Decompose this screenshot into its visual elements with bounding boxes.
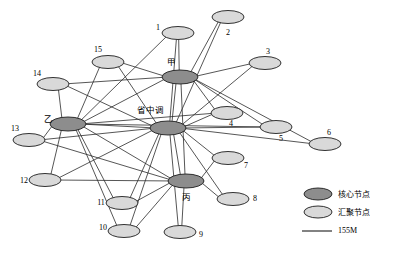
aggregation-node-shape-n13[interactable] [13,134,45,147]
node-label-n5: 5 [279,134,283,143]
edge-hub-n11 [130,134,159,198]
edge-hub-n4 [185,115,212,127]
node-jia[interactable]: 甲 [162,57,198,85]
edge-yi-n10 [76,130,117,225]
node-n14[interactable]: 14 [33,69,69,91]
figure-caption [0,249,398,258]
node-label-n2: 2 [226,28,230,37]
legend-panel: 核心节点汇聚节点155M [302,188,370,235]
edge-yi-n4 [86,113,212,123]
aggregation-node-shape-n8[interactable] [217,193,249,206]
edge-yi-n13 [44,127,52,138]
aggregation-node-shape-n5[interactable] [260,121,292,134]
legend-label-aggregation: 汇聚节点 [338,208,370,217]
node-label-n4: 4 [229,119,233,128]
node-n9[interactable]: 9 [164,226,203,239]
node-label-n12: 12 [20,176,28,185]
node-n3[interactable]: 3 [249,47,281,70]
edge-hub-n7 [184,131,214,155]
legend-label-bandwidth: 155M [338,226,357,235]
edge-bing-n7 [201,161,214,178]
edge-jia-n14 [69,77,163,83]
node-n6[interactable]: 6 [309,128,341,151]
legend-label-core: 核心节点 [338,189,370,199]
node-n8[interactable]: 8 [217,193,257,206]
node-n7[interactable]: 7 [212,152,248,170]
aggregation-node-shape-n3[interactable] [249,57,281,70]
legend-aggregation-node-swatch [304,206,332,218]
aggregation-node-shape-n9[interactable] [164,226,196,239]
aggregation-node-shape-n1[interactable] [162,27,194,40]
node-label-yi: 乙 [44,114,53,124]
edge-yi-bing [84,127,170,178]
aggregation-node-shape-n12[interactable] [29,174,61,187]
edge-yi-n11 [78,130,113,198]
edge-jia-n15 [123,63,162,75]
legend-core-node-swatch [304,188,332,200]
legend-item-2: 155M [302,226,357,235]
network-topology-figure: 省中调甲乙丙123456789101112131415 核心节点汇聚节点155M [0,0,398,258]
node-label-bing: 丙 [182,192,191,202]
core-node-shape-yi[interactable] [50,117,86,131]
aggregation-node-shape-n6[interactable] [309,138,341,151]
edge-hub-n12 [59,131,151,178]
node-hub[interactable]: 省中调 [137,105,187,136]
edge-jia-n2 [191,22,218,72]
node-n1[interactable]: 1 [156,23,194,40]
node-n15[interactable]: 15 [92,45,124,69]
edge-jia-n3 [197,64,249,76]
node-label-n13: 13 [11,124,19,133]
node-n12[interactable]: 12 [20,174,61,187]
edge-jia-n4 [194,81,215,109]
node-label-n11: 11 [97,198,105,207]
edge-bing-n13 [44,142,169,180]
aggregation-node-shape-n15[interactable] [92,56,124,69]
legend-item-0: 核心节点 [304,188,370,200]
node-label-n9: 9 [199,230,203,239]
core-node-shape-hub[interactable] [150,121,186,135]
topology-canvas: 省中调甲乙丙123456789101112131415 核心节点汇聚节点155M [0,0,398,258]
aggregation-node-shape-n14[interactable] [37,78,69,91]
node-bing[interactable]: 丙 [168,174,204,202]
aggregation-node-shape-n4[interactable] [211,107,243,120]
node-label-hub: 省中调 [137,105,164,115]
aggregation-node-shape-n10[interactable] [108,225,140,238]
edge-yi-n12 [51,130,61,174]
node-label-n7: 7 [244,161,248,170]
node-label-n10: 10 [99,223,107,232]
core-node-shape-bing[interactable] [168,174,204,188]
node-label-jia: 甲 [167,57,176,67]
edge-bing-n12 [61,180,169,181]
node-label-n14: 14 [33,69,41,78]
node-n2[interactable]: 2 [212,11,244,37]
edge-hub-bing [174,135,181,175]
edge-hub-n5 [186,127,261,128]
node-label-n6: 6 [327,128,331,137]
node-label-n3: 3 [266,47,270,56]
node-n11[interactable]: 11 [97,197,138,210]
node-n4[interactable]: 4 [211,107,243,128]
edge-jia-yi [84,80,163,122]
node-n10[interactable]: 10 [99,223,140,238]
node-label-n8: 8 [253,194,257,203]
edge-hub-n10 [130,134,161,225]
aggregation-node-shape-n2[interactable] [212,11,244,24]
node-label-n15: 15 [94,45,102,54]
edge-yi-n14 [59,90,62,118]
legend-item-1: 汇聚节点 [304,206,370,218]
core-node-shape-jia[interactable] [162,70,198,84]
node-n13[interactable]: 13 [11,124,45,147]
node-label-n1: 1 [156,23,160,32]
aggregation-node-shape-n11[interactable] [106,197,138,210]
aggregation-node-shape-n7[interactable] [212,152,244,165]
